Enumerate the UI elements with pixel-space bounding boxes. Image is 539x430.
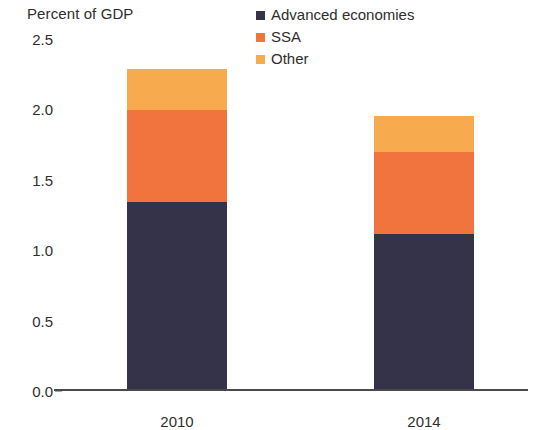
x-axis-tick-label: 2010	[127, 413, 227, 430]
bar-segment	[374, 116, 474, 153]
y-axis-tick-label: 0.5	[32, 313, 53, 328]
y-axis-tick-label: 0.0	[32, 384, 53, 399]
plot-area: 0.00.51.01.52.02.520102014	[62, 39, 528, 391]
bar-segment	[127, 202, 227, 389]
y-axis-tick-label: 1.5	[32, 172, 53, 187]
bar-segment	[127, 69, 227, 110]
bar-segment	[374, 234, 474, 389]
bar-2014	[374, 116, 474, 389]
x-axis-tick: 2014	[374, 401, 474, 421]
y-axis-tick-label: 2.0	[32, 102, 53, 117]
legend-swatch-icon	[256, 11, 265, 20]
bar-segment	[374, 152, 474, 234]
legend-item-label: Advanced economies	[271, 7, 414, 23]
x-axis-tick-label: 2014	[374, 413, 474, 430]
x-axis-tick: 2010	[127, 401, 227, 421]
y-axis-tick-label: 1.0	[32, 243, 53, 258]
x-axis-line	[54, 389, 528, 391]
y-axis-tick-label: 2.5	[32, 32, 53, 47]
bar-segment	[127, 110, 227, 202]
legend-item: Advanced economies	[256, 6, 414, 24]
y-axis-title: Percent of GDP	[27, 5, 133, 22]
bar-2010	[127, 69, 227, 389]
y-axis-tick-mark	[55, 391, 62, 392]
